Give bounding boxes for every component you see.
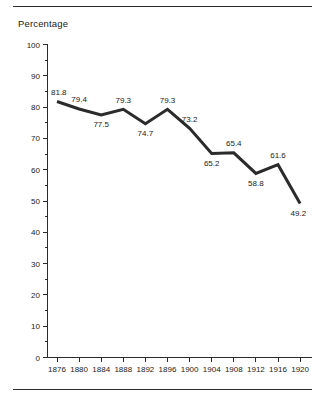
x-tick-label: 1888 <box>114 365 132 374</box>
line-chart-plot: 0102030405060708090100 18761880188418881… <box>0 0 325 398</box>
data-point-label: 79.4 <box>71 95 87 104</box>
y-tick-label: 10 <box>31 322 40 331</box>
series-line-percentage <box>57 101 300 203</box>
x-tick-label: 1892 <box>137 365 155 374</box>
data-point-label: 77.5 <box>93 120 109 129</box>
y-tick-label: 50 <box>31 197 40 206</box>
data-point-label: 74.7 <box>138 129 154 138</box>
data-point-label: 65.4 <box>226 139 242 148</box>
data-point-label: 81.8 <box>51 88 67 97</box>
y-tick-label: 30 <box>31 260 40 269</box>
y-axis: 0102030405060708090100 <box>27 41 48 363</box>
x-tick-label: 1884 <box>92 365 110 374</box>
data-point-label: 61.6 <box>270 151 286 160</box>
y-tick-label: 40 <box>31 228 40 237</box>
data-point-label: 58.8 <box>248 179 264 188</box>
data-point-label: 65.2 <box>204 159 220 168</box>
y-tick-label: 0 <box>36 354 41 363</box>
data-point-label: 49.2 <box>291 209 307 218</box>
x-tick-label: 1912 <box>247 365 265 374</box>
x-tick-label: 1876 <box>48 365 66 374</box>
data-point-label: 79.3 <box>160 96 176 105</box>
data-point-label: 79.3 <box>116 96 132 105</box>
x-tick-label: 1900 <box>181 365 199 374</box>
x-tick-label: 1916 <box>269 365 287 374</box>
y-tick-label: 70 <box>31 134 40 143</box>
data-point-label: 73.2 <box>182 115 198 124</box>
x-tick-label: 1920 <box>291 365 309 374</box>
x-tick-label: 1896 <box>159 365 177 374</box>
x-tick-label: 1908 <box>225 365 243 374</box>
y-tick-label: 60 <box>31 166 40 175</box>
y-tick-label: 80 <box>31 103 40 112</box>
x-tick-label: 1904 <box>203 365 221 374</box>
figure-container: Percentage 0102030405060708090100 187618… <box>0 0 325 398</box>
data-series <box>57 101 300 203</box>
y-tick-label: 100 <box>27 41 41 50</box>
y-tick-label: 90 <box>31 72 40 81</box>
x-axis: 1876188018841888189218961900190419081912… <box>48 358 313 375</box>
data-label-group: 81.879.477.579.374.779.373.265.265.458.8… <box>51 88 307 218</box>
y-tick-label: 20 <box>31 291 40 300</box>
x-tick-label: 1880 <box>70 365 88 374</box>
